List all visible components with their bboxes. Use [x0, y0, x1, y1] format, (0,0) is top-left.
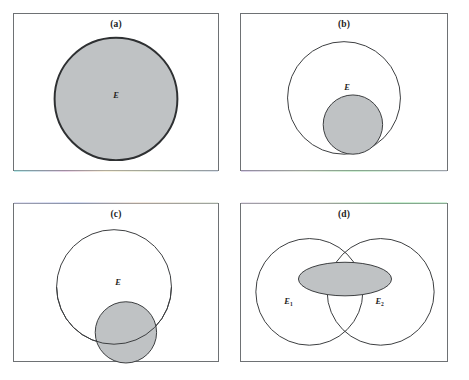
set-label-e1: E1: [283, 297, 293, 307]
overlap-circle-shaded: [95, 302, 156, 363]
set-label-e: E: [343, 83, 350, 92]
panel-a: (a) E: [13, 13, 219, 171]
panel-b-graphic: E: [241, 14, 447, 170]
set-label-e: E: [114, 278, 121, 287]
panel-a-graphic: E: [14, 14, 218, 170]
set-label-e: E: [112, 91, 119, 100]
subset-circle-shaded: [323, 95, 382, 154]
panel-c-graphic: E: [14, 204, 218, 361]
panel-d: (d) E1 E2: [240, 203, 448, 362]
set-label-e2: E2: [374, 297, 384, 307]
venn-diagram-figure: (a) E (b) E (c) E (d) E1 E2: [0, 0, 469, 380]
union-ellipse-shaded: [298, 262, 391, 296]
panel-d-graphic: E1 E2: [241, 204, 447, 361]
panel-b: (b) E: [240, 13, 448, 171]
panel-c: (c) E: [13, 203, 219, 362]
